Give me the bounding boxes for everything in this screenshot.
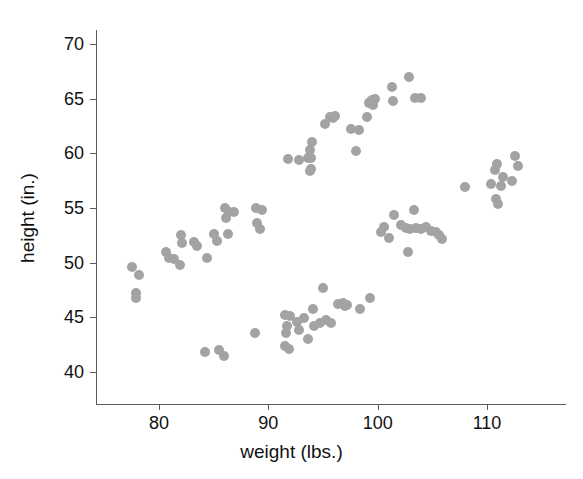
data-point xyxy=(416,93,426,103)
data-point xyxy=(309,321,319,331)
data-point xyxy=(315,318,325,328)
data-point xyxy=(306,153,316,163)
data-point xyxy=(177,238,187,248)
data-point xyxy=(405,224,415,234)
data-point xyxy=(292,317,302,327)
x-tick-label: 90 xyxy=(244,414,292,432)
data-point xyxy=(176,230,186,240)
data-point xyxy=(307,137,317,147)
y-tick-label: 40 xyxy=(38,363,84,381)
data-point xyxy=(255,224,265,234)
data-point xyxy=(491,194,501,204)
data-point xyxy=(250,328,260,338)
x-axis-label: weight (lbs.) xyxy=(0,441,583,463)
data-point xyxy=(401,223,411,233)
x-tick-label: 100 xyxy=(354,414,402,432)
data-point xyxy=(362,112,372,122)
data-point xyxy=(384,233,394,243)
y-tick-label: 70 xyxy=(38,35,84,53)
plot-data-area xyxy=(0,0,583,479)
data-point xyxy=(294,325,304,335)
x-tick-label: 110 xyxy=(463,414,511,432)
y-tick-mark xyxy=(90,317,96,318)
data-point xyxy=(294,155,304,165)
data-point xyxy=(308,304,318,314)
data-point xyxy=(342,300,352,310)
x-tick-mark xyxy=(159,404,160,410)
data-point xyxy=(338,298,348,308)
scatter-plot-figure: 40455055606570 8090100110 weight (lbs.) … xyxy=(0,0,583,479)
data-point xyxy=(303,153,313,163)
y-tick-label: 55 xyxy=(38,199,84,217)
x-tick-mark xyxy=(268,404,269,410)
data-point xyxy=(492,159,502,169)
data-point xyxy=(251,203,261,213)
y-tick-mark xyxy=(90,153,96,154)
data-point xyxy=(200,347,210,357)
data-point xyxy=(257,205,267,215)
data-point xyxy=(229,207,239,217)
data-point xyxy=(131,293,141,303)
y-tick-label: 50 xyxy=(38,254,84,272)
data-point xyxy=(416,224,426,234)
data-point xyxy=(325,112,335,122)
data-point xyxy=(305,166,315,176)
data-point xyxy=(169,254,179,264)
data-point xyxy=(282,321,292,331)
data-point xyxy=(192,241,202,251)
data-point xyxy=(280,310,290,320)
data-point xyxy=(365,97,375,107)
data-point xyxy=(367,95,377,105)
data-point xyxy=(284,344,294,354)
data-point xyxy=(426,226,436,236)
y-tick-mark xyxy=(90,208,96,209)
data-point xyxy=(370,94,380,104)
data-point xyxy=(368,100,378,110)
data-point xyxy=(223,229,233,239)
data-point xyxy=(354,125,364,135)
data-point xyxy=(340,301,350,311)
data-point xyxy=(321,315,331,325)
data-point xyxy=(164,253,174,263)
data-point xyxy=(351,146,361,156)
data-point xyxy=(299,313,309,323)
x-axis-line xyxy=(96,404,566,405)
data-point xyxy=(409,205,419,215)
data-point xyxy=(224,207,234,217)
data-point xyxy=(134,270,144,280)
y-axis-line xyxy=(96,30,97,405)
data-point xyxy=(326,318,336,328)
data-point xyxy=(496,181,506,191)
data-point xyxy=(189,237,199,247)
y-tick-mark xyxy=(90,263,96,264)
data-point xyxy=(490,165,500,175)
data-point xyxy=(460,182,470,192)
data-point xyxy=(388,96,398,106)
data-point xyxy=(320,119,330,129)
data-point xyxy=(410,93,420,103)
data-point xyxy=(498,172,508,182)
data-point xyxy=(220,203,230,213)
data-point xyxy=(493,199,503,209)
y-tick-mark xyxy=(90,372,96,373)
data-point xyxy=(437,234,447,244)
data-point xyxy=(333,299,343,309)
x-tick-mark xyxy=(378,404,379,410)
data-point xyxy=(318,283,328,293)
data-point xyxy=(221,213,231,223)
data-point xyxy=(389,210,399,220)
x-tick-mark xyxy=(487,404,488,410)
data-point xyxy=(175,260,185,270)
y-tick-label: 60 xyxy=(38,144,84,162)
data-point xyxy=(280,341,290,351)
data-point xyxy=(403,247,413,257)
data-point xyxy=(306,164,316,174)
data-point xyxy=(252,218,262,228)
data-point xyxy=(219,351,229,361)
data-point xyxy=(365,293,375,303)
data-point xyxy=(281,328,291,338)
data-point xyxy=(434,230,444,240)
data-point xyxy=(305,145,315,155)
data-point xyxy=(355,304,365,314)
data-point xyxy=(396,220,406,230)
